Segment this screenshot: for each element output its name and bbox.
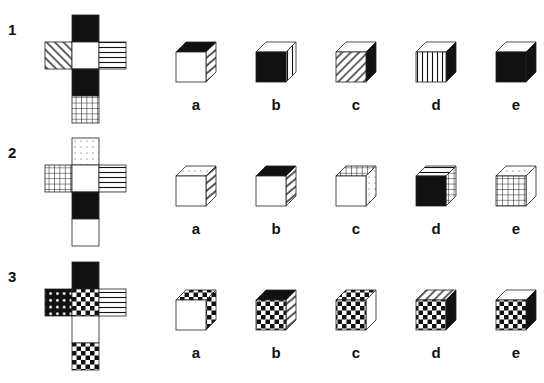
net-face [72, 316, 99, 343]
cube-option-a[interactable] [176, 290, 216, 330]
net-face [99, 289, 126, 316]
cube-front-face [256, 300, 286, 330]
problem-number: 2 [8, 144, 16, 161]
net-face [99, 42, 126, 69]
option-label: c [341, 96, 371, 113]
option-label: e [501, 96, 531, 113]
option-label: a [181, 344, 211, 361]
net-face [45, 289, 72, 316]
cube-option-e[interactable] [496, 290, 536, 330]
cube-front-face [416, 300, 446, 330]
option-label: c [341, 344, 371, 361]
cube-option-b[interactable] [256, 290, 296, 330]
problem-number: 3 [8, 268, 16, 285]
problem-number: 1 [8, 21, 16, 38]
cube-front-face [336, 176, 366, 206]
cube-front-face [176, 52, 206, 82]
cube-option-c[interactable] [336, 166, 376, 206]
option-label: b [261, 344, 291, 361]
option-label: e [501, 344, 531, 361]
cube-option-b[interactable] [256, 42, 296, 82]
cube-front-face [496, 176, 526, 206]
cube-option-c[interactable] [336, 42, 376, 82]
cube-option-e[interactable] [496, 42, 536, 82]
cube-front-face [256, 176, 286, 206]
cube-front-face [176, 300, 206, 330]
net-face [72, 96, 99, 123]
option-label: d [421, 344, 451, 361]
cube-option-d[interactable] [416, 166, 456, 206]
cube-option-a[interactable] [176, 166, 216, 206]
option-label: a [181, 220, 211, 237]
cubes-layer [176, 42, 536, 330]
option-label: b [261, 220, 291, 237]
net-face [72, 192, 99, 219]
option-label: b [261, 96, 291, 113]
cube-option-a[interactable] [176, 42, 216, 82]
option-label: a [181, 96, 211, 113]
option-label: c [341, 220, 371, 237]
option-label: d [421, 96, 451, 113]
cube-net [45, 262, 126, 370]
cube-front-face [416, 52, 446, 82]
cube-option-c[interactable] [336, 290, 376, 330]
net-face [72, 262, 99, 289]
cube-front-face [496, 52, 526, 82]
net-face [72, 69, 99, 96]
net-face [45, 165, 72, 192]
cube-front-face [336, 52, 366, 82]
net-face [72, 289, 99, 316]
cube-net [45, 15, 126, 123]
nets-layer [45, 15, 126, 370]
cube-front-face [416, 176, 446, 206]
cube-front-face [256, 52, 286, 82]
net-face [72, 15, 99, 42]
cube-front-face [336, 300, 366, 330]
option-label: d [421, 220, 451, 237]
net-face [72, 42, 99, 69]
cube-option-b[interactable] [256, 166, 296, 206]
option-label: e [501, 220, 531, 237]
cube-front-face [176, 176, 206, 206]
net-face [45, 42, 72, 69]
cube-option-e[interactable] [496, 166, 536, 206]
puzzle-canvas [0, 0, 544, 383]
net-face [72, 219, 99, 246]
net-face [99, 165, 126, 192]
net-face [72, 165, 99, 192]
cube-front-face [496, 300, 526, 330]
cube-option-d[interactable] [416, 290, 456, 330]
net-face [72, 343, 99, 370]
net-face [72, 138, 99, 165]
cube-net [45, 138, 126, 246]
cube-option-d[interactable] [416, 42, 456, 82]
